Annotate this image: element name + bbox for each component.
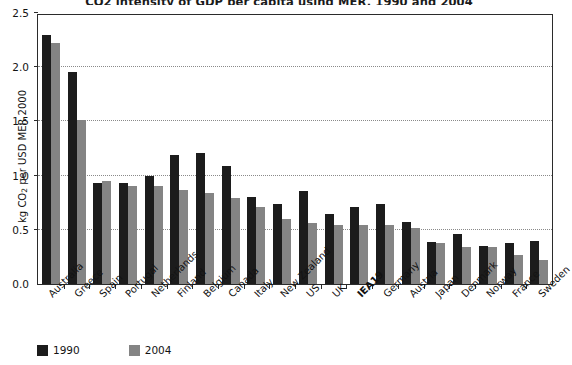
x-axis-label-cell: New Zealand <box>269 287 295 361</box>
bar-group <box>141 15 167 284</box>
x-axis-label-cell: Canada <box>218 287 244 361</box>
bar-1990 <box>68 72 77 284</box>
bar-2004 <box>282 219 291 284</box>
x-axis-label-cell: Italy <box>243 287 269 361</box>
legend-swatch-1990 <box>37 345 48 356</box>
y-axis-tick-label: 2.5 <box>0 7 29 19</box>
bar-1990 <box>350 207 359 284</box>
bar-2004 <box>102 181 111 284</box>
bar-1990 <box>42 35 51 284</box>
legend-label: 2004 <box>145 344 172 356</box>
bar-group <box>218 15 244 284</box>
x-axis-label-cell: Sweden <box>527 287 553 361</box>
bar-group <box>115 15 141 284</box>
x-axis-label-cell: IEA19 <box>347 287 373 361</box>
bar-2004 <box>462 247 471 284</box>
legend-swatch-2004 <box>129 345 140 356</box>
plot-area: 0.00.51.01.52.02.5 <box>37 14 553 285</box>
x-axis-label-cell: Germany <box>372 287 398 361</box>
y-axis-tick-mark <box>34 12 38 13</box>
bar-2004 <box>51 43 60 284</box>
bar-group <box>424 15 450 284</box>
x-axis-label-cell: France <box>501 287 527 361</box>
bar-group <box>475 15 501 284</box>
bar-group <box>346 15 372 284</box>
bar-group <box>295 15 321 284</box>
legend-item: 2004 <box>129 344 172 356</box>
bar-2004 <box>385 225 394 284</box>
bar-group <box>372 15 398 284</box>
bars-group <box>38 15 552 284</box>
bar-1990 <box>119 183 128 284</box>
x-axis-label-cell: US <box>295 287 321 361</box>
x-axis-label-cell: Denmark <box>450 287 476 361</box>
x-axis-label-cell: Japan <box>424 287 450 361</box>
x-axis-label-cell: Belgium <box>192 287 218 361</box>
legend-item: 1990 <box>37 344 80 356</box>
y-axis-tick-label: 1.0 <box>0 170 29 182</box>
bar-2004 <box>205 193 214 284</box>
bar-group <box>526 15 552 284</box>
y-axis-tick-label: 0.5 <box>0 224 29 236</box>
y-axis-label-main: kg CO <box>17 193 28 223</box>
legend-label: 1990 <box>53 344 80 356</box>
bar-2004 <box>77 120 86 284</box>
x-axis-label-cell: Austria <box>398 287 424 361</box>
bar-2004 <box>436 243 445 284</box>
chart-legend: 19902004 <box>37 341 171 359</box>
x-axis-label-cell: Norway <box>476 287 502 361</box>
bar-1990 <box>196 153 205 284</box>
bar-group <box>269 15 295 284</box>
bar-group <box>501 15 527 284</box>
bar-2004 <box>359 225 368 284</box>
bar-2004 <box>128 186 137 284</box>
bar-group <box>38 15 64 284</box>
y-axis-tick-label: 1.5 <box>0 115 29 127</box>
bar-2004 <box>334 225 343 284</box>
chart-title-clipped: CO2 intensity of GDP per capita using ME… <box>0 0 558 5</box>
x-axis-label-cell: UK <box>321 287 347 361</box>
bar-group <box>321 15 347 284</box>
y-axis-tick-label: 2.0 <box>0 61 29 73</box>
y-axis-label-subscript: 2 <box>20 188 29 193</box>
bar-group <box>167 15 193 284</box>
bar-group <box>64 15 90 284</box>
y-axis-tick-label: 0.0 <box>0 278 29 290</box>
bar-group <box>449 15 475 284</box>
bar-1990 <box>273 204 282 284</box>
chart-title-text: CO2 intensity of GDP per capita using ME… <box>85 0 473 5</box>
bar-group <box>192 15 218 284</box>
bar-group <box>244 15 270 284</box>
bar-group <box>89 15 115 284</box>
bar-group <box>398 15 424 284</box>
